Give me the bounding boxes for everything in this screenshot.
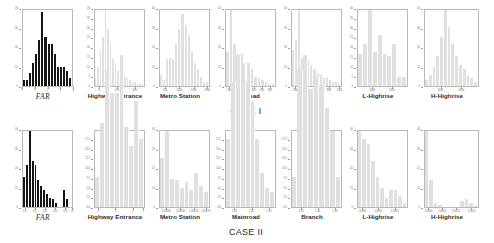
y-axis-tick-label: 0 bbox=[352, 86, 353, 89]
y-axis-tick-label: 7.5 bbox=[217, 177, 221, 180]
y-axis-tick-label: 20 bbox=[350, 168, 353, 171]
histogram-bar bbox=[142, 84, 144, 86]
y-axis-tick-label: 40 bbox=[284, 8, 287, 11]
y-axis-tick-label: 12.5 bbox=[85, 158, 90, 161]
x-axis-tick-label: 0 bbox=[21, 90, 22, 93]
y-axis-tick-label: 0 bbox=[220, 86, 221, 89]
y-axis-tick bbox=[222, 198, 224, 199]
y-axis-tick bbox=[156, 130, 158, 131]
histogram-bar bbox=[206, 82, 209, 86]
x-axis-tick-label: 0.6 bbox=[53, 211, 57, 214]
y-axis-tick bbox=[354, 77, 356, 78]
y-axis-tick bbox=[19, 68, 21, 69]
y-axis-tick bbox=[354, 58, 356, 59]
x-axis-tick-label: 350 bbox=[268, 90, 272, 93]
histogram-panel: 010203040500100015002000Metro Station bbox=[149, 0, 211, 110]
y-axis-tick bbox=[354, 169, 356, 170]
y-axis-tick bbox=[354, 150, 356, 151]
y-axis-tick bbox=[156, 169, 158, 170]
y-axis: 0.02.55.07.510.012.515.017.5 bbox=[215, 130, 224, 208]
y-axis-tick-label: 10.0 bbox=[85, 168, 90, 171]
y-axis-tick bbox=[156, 68, 158, 69]
y-axis-tick-label: 15.0 bbox=[282, 148, 287, 151]
y-axis-tick bbox=[91, 9, 93, 10]
y-axis-tick bbox=[91, 58, 93, 59]
histogram-bars bbox=[23, 10, 72, 86]
y-axis-tick-label: 10 bbox=[152, 66, 155, 69]
y-axis-tick bbox=[222, 48, 224, 49]
y-axis-tick bbox=[421, 68, 423, 69]
histogram-bars bbox=[226, 10, 275, 86]
y-axis-tick-label: 40 bbox=[15, 8, 18, 11]
y-axis-tick-label: 15 bbox=[87, 56, 90, 59]
y-axis-tick bbox=[288, 68, 290, 69]
y-axis-tick bbox=[288, 48, 290, 49]
y-axis-tick bbox=[222, 140, 224, 141]
histogram-bars bbox=[226, 131, 275, 207]
y-axis-tick bbox=[91, 29, 93, 30]
y-axis-tick bbox=[19, 130, 21, 131]
plot-frame bbox=[225, 9, 276, 87]
y-axis: 0510152025303540 bbox=[347, 9, 356, 87]
y-axis-tick bbox=[222, 9, 224, 10]
y-axis-tick bbox=[222, 68, 224, 69]
histogram-panel: 0102030401.00001.00051.00101.0015H-Highr… bbox=[414, 121, 480, 231]
histogram-bar bbox=[55, 203, 58, 207]
y-axis: 010203040 bbox=[281, 9, 290, 87]
histogram-bar bbox=[272, 84, 276, 86]
y-axis-tick-label: 40 bbox=[152, 8, 155, 11]
y-axis-tick-label: 40 bbox=[350, 8, 353, 11]
plot-frame bbox=[159, 9, 210, 87]
y-axis-tick-label: 0 bbox=[352, 207, 353, 210]
histogram-bar bbox=[270, 192, 275, 207]
y-axis-tick bbox=[421, 48, 423, 49]
y-axis-tick-label: 30 bbox=[284, 27, 287, 30]
panel-title: FAR bbox=[12, 93, 74, 100]
y-axis-tick bbox=[222, 169, 224, 170]
y-axis-tick-label: 30 bbox=[15, 148, 18, 151]
y-axis-tick bbox=[91, 159, 93, 160]
y-axis-tick bbox=[288, 29, 290, 30]
x-axis-tick-label: 1.00015 bbox=[201, 211, 210, 214]
histogram-bars bbox=[23, 131, 72, 207]
y-axis-tick-label: 12.5 bbox=[282, 158, 287, 161]
y-axis-tick-label: 7.5 bbox=[86, 177, 90, 180]
y-axis-tick-label: 20 bbox=[417, 47, 420, 50]
y-axis-tick bbox=[354, 68, 356, 69]
y-axis-tick-label: 5.0 bbox=[86, 187, 90, 190]
y-axis-tick bbox=[19, 189, 21, 190]
y-axis-tick-label: 40 bbox=[152, 129, 155, 132]
y-axis-tick-label: 5 bbox=[352, 76, 353, 79]
y-axis-tick bbox=[19, 29, 21, 30]
y-axis-tick bbox=[421, 169, 423, 170]
y-axis-tick-label: 20 bbox=[152, 168, 155, 171]
histogram-panel: 01020304001234FAR bbox=[12, 0, 74, 110]
y-axis-tick bbox=[222, 150, 224, 151]
y-axis-tick-label: 5.0 bbox=[217, 187, 221, 190]
x-axis-tick-label: 0.0 bbox=[23, 211, 27, 214]
panel-title: FAR bbox=[12, 214, 74, 221]
histogram-bars bbox=[160, 131, 209, 207]
y-axis: 010203040 bbox=[12, 9, 21, 87]
y-axis-tick-label: 0 bbox=[154, 207, 155, 210]
y-axis: 0510152025303540 bbox=[84, 9, 93, 87]
figure-histogram-grid: 01020304001234FAR05101520253035400100200… bbox=[0, 0, 494, 243]
y-axis-tick bbox=[91, 150, 93, 151]
histogram-bar bbox=[204, 192, 209, 207]
y-axis: 010203040 bbox=[215, 9, 224, 87]
y-axis-tick-label: 0 bbox=[154, 86, 155, 89]
x-axis-tick-label: 1.0 bbox=[70, 211, 74, 214]
y-axis-tick-label: 20 bbox=[152, 47, 155, 50]
y-axis-tick bbox=[156, 48, 158, 49]
y-axis-tick bbox=[421, 29, 423, 30]
y-axis-tick bbox=[91, 179, 93, 180]
y-axis-tick bbox=[156, 87, 158, 88]
histogram-bars bbox=[292, 131, 341, 207]
y-axis-tick bbox=[421, 189, 423, 190]
panel-title: Branch bbox=[281, 214, 343, 220]
x-axis-tick-label: 800 bbox=[327, 90, 331, 93]
y-axis-tick bbox=[354, 130, 356, 131]
y-axis-tick-label: 30 bbox=[15, 27, 18, 30]
y-axis-tick bbox=[354, 87, 356, 88]
y-axis-tick bbox=[91, 68, 93, 69]
